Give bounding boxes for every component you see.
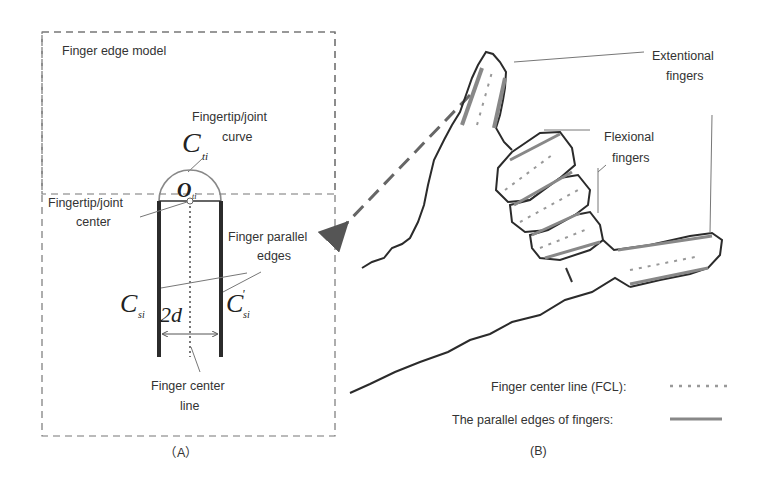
symbol-o-ti-sub: ti	[192, 192, 196, 201]
extentional-label-1: Extentional	[652, 49, 714, 63]
flexional-label-1: Flexional	[604, 130, 654, 144]
panel-a-title: Finger edge model	[62, 44, 166, 58]
panel-b-caption: (B)	[530, 444, 547, 458]
panel-a-caption: （A）	[164, 446, 198, 460]
tip-curve-label-1: Fingertip/joint	[192, 110, 268, 124]
tip-center-label-2: center	[76, 215, 111, 229]
tip-center-label-1: Fingertip/joint	[48, 196, 124, 210]
symbol-o-ti: O	[177, 179, 191, 201]
center-line-label-2: line	[180, 399, 200, 413]
legend-edges-label: The parallel edges of fingers:	[452, 413, 613, 427]
symbol-width-2d: 2d	[160, 302, 183, 327]
legend-fcl-label: Finger center line (FCL):	[491, 380, 626, 394]
tip-curve-label-2: curve	[222, 130, 253, 144]
legend: Finger center line (FCL): The parallel e…	[452, 380, 732, 427]
symbol-c-si-prime-sub: si	[243, 309, 250, 320]
parallel-edges-label-1: Finger parallel	[228, 230, 307, 244]
symbol-c-si: C	[120, 289, 138, 318]
flexional-label-2: fingers	[612, 151, 650, 165]
panel-b-hand-drawing: Extentional fingers Flexional fingers Fi…	[345, 49, 732, 458]
symbol-c-si-sub: si	[138, 309, 145, 320]
symbol-c-si-prime-sup: '	[242, 287, 245, 301]
extentional-label-2: fingers	[666, 69, 704, 83]
wrist-outline	[350, 278, 630, 393]
panel-a-finger-edge-model: Finger edge model Fingertip/joint curve …	[42, 32, 335, 460]
parallel-edges-label-2: edges	[257, 249, 291, 263]
symbol-c-ti-sub: ti	[202, 150, 208, 162]
symbol-c-ti: C	[182, 127, 201, 158]
thumb-outline	[603, 233, 722, 287]
center-line-label-1: Finger center	[151, 379, 225, 393]
direction-arrow	[345, 95, 470, 225]
